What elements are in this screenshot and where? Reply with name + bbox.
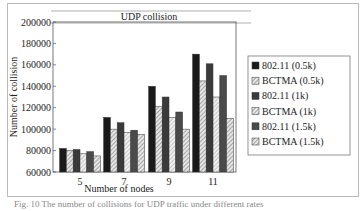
bar: [155, 107, 162, 172]
y-tick-label: 180000: [21, 38, 51, 49]
bar: [66, 151, 73, 172]
legend-label: 802.11 (1.5k): [262, 121, 316, 133]
bar: [80, 154, 87, 172]
legend-label: BCTMA (1.5k): [262, 136, 324, 148]
bar: [220, 76, 227, 172]
bar: [169, 117, 176, 172]
bar: [149, 86, 156, 172]
bar: [87, 152, 94, 172]
legend-label: BCTMA (1k): [262, 106, 316, 118]
bar: [60, 148, 67, 172]
x-tick-label: 11: [208, 176, 218, 187]
bar: [199, 81, 206, 172]
y-tick-label: 140000: [21, 81, 51, 92]
bar: [227, 118, 234, 172]
bar: [94, 156, 101, 172]
figure-caption: Fig. 10 The number of collisions for UDP…: [14, 199, 264, 209]
y-axis-label: Number of collision: [8, 57, 19, 138]
bar: [131, 130, 138, 172]
legend-label: 802.11 (1k): [262, 90, 308, 102]
bar: [213, 97, 220, 172]
legend: 802.11 (0.5k)BCTMA (0.5k)802.11 (1k)BCTM…: [248, 56, 350, 155]
bar: [206, 64, 213, 172]
bar: [124, 132, 131, 172]
x-tick-label: 5: [78, 176, 83, 187]
bar: [117, 123, 124, 172]
legend-swatch: [252, 138, 259, 145]
chart-title: UDP collision: [121, 11, 178, 22]
bar: [104, 117, 111, 172]
y-tick-label: 160000: [21, 59, 51, 70]
bar: [73, 150, 80, 173]
bar-chart: UDP collision 60000800001000001200001400…: [8, 4, 358, 196]
x-axis-label: Number of nodes: [84, 183, 154, 194]
y-tick-label: 200000: [21, 17, 51, 28]
chart-frame: UDP collision 60000800001000001200001400…: [7, 3, 359, 197]
bar: [183, 129, 190, 172]
bar: [138, 135, 145, 173]
bar: [110, 129, 117, 172]
legend-swatch: [252, 123, 259, 130]
y-tick-label: 60000: [26, 167, 51, 178]
bars: [60, 54, 234, 172]
bar: [162, 97, 169, 172]
legend-label: BCTMA (0.5k): [262, 75, 324, 87]
legend-swatch: [252, 108, 259, 115]
legend-swatch: [252, 92, 259, 99]
bar: [176, 112, 183, 172]
y-tick-label: 80000: [26, 145, 51, 156]
x-tick-label: 9: [167, 176, 172, 187]
legend-swatch: [252, 62, 259, 69]
legend-label: 802.11 (0.5k): [262, 60, 316, 72]
legend-swatch: [252, 77, 259, 84]
y-tick-label: 100000: [21, 124, 51, 135]
y-tick-label: 120000: [21, 102, 51, 113]
bar: [193, 54, 200, 172]
